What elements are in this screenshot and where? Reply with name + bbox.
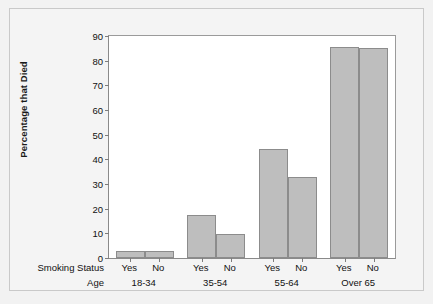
row-header-smoking-status: Smoking Status — [18, 262, 104, 273]
y-tick-label: 60 — [92, 105, 103, 116]
y-tick-mark — [105, 135, 109, 136]
y-axis-title: Percentage that Died — [18, 25, 29, 195]
plot-area: 0102030405060708090 — [108, 35, 396, 259]
x-label-smoking-no: No — [281, 262, 321, 273]
y-tick-mark — [105, 184, 109, 185]
y-tick-mark — [105, 36, 109, 37]
y-tick-label: 70 — [92, 80, 103, 91]
row-header-age: Age — [18, 277, 104, 288]
y-tick-label: 20 — [92, 203, 103, 214]
x-label-smoking-no: No — [138, 262, 178, 273]
y-tick-label: 80 — [92, 55, 103, 66]
y-tick-label: 30 — [92, 179, 103, 190]
y-tick-mark — [105, 233, 109, 234]
bar-35-54-no — [216, 234, 245, 258]
bar-35-54-yes — [187, 215, 216, 258]
y-tick-label: 90 — [92, 31, 103, 42]
y-tick-label: 10 — [92, 228, 103, 239]
y-tick-label: 40 — [92, 154, 103, 165]
y-tick-mark — [105, 258, 109, 259]
bar-chart-figure: Percentage that Died 0102030405060708090… — [0, 0, 433, 304]
y-tick-mark — [105, 110, 109, 111]
x-label-smoking-no: No — [353, 262, 393, 273]
y-tick-label: 50 — [92, 129, 103, 140]
y-tick-mark — [105, 209, 109, 210]
bar-over-65-no — [359, 48, 388, 258]
bar-55-64-yes — [259, 149, 288, 258]
y-tick-mark — [105, 159, 109, 160]
x-label-age-over-65: Over 65 — [313, 277, 403, 288]
bar-55-64-no — [288, 177, 317, 258]
bar-18-34-yes — [116, 251, 145, 258]
y-tick-mark — [105, 85, 109, 86]
bar-18-34-no — [145, 251, 174, 258]
y-tick-mark — [105, 61, 109, 62]
bar-over-65-yes — [330, 47, 359, 258]
x-label-smoking-no: No — [210, 262, 250, 273]
